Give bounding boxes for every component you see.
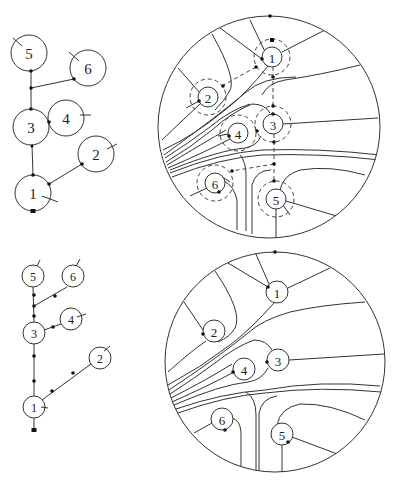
tree-edge [49, 164, 82, 184]
tree-node-5: 5 [11, 35, 47, 71]
disk-node-2: 2 [203, 320, 225, 342]
node-label: 1 [29, 186, 37, 202]
diagram-svg: 5 6 3 4 2 [0, 0, 402, 485]
node-label: 6 [70, 270, 76, 284]
figure-canvas: 5 6 3 4 2 [0, 0, 402, 485]
disk-node-1: 1 [262, 47, 282, 67]
node-label: 6 [84, 61, 92, 77]
tick-mark [37, 260, 40, 266]
node-label: 5 [273, 193, 280, 208]
node-label: 2 [211, 325, 218, 340]
disk-node-3: 3 [267, 349, 289, 371]
disk-node-1: 1 [266, 281, 288, 303]
node-label: 3 [270, 118, 277, 133]
disk-node-3: 3 [263, 114, 283, 134]
node-label: 2 [205, 91, 212, 106]
tree-edge [31, 79, 74, 88]
tree-node-3: 3 [23, 322, 45, 344]
tree-node-1: 1 [23, 396, 48, 418]
node-label: 6 [212, 177, 219, 192]
node-label: 4 [68, 313, 74, 327]
disk-node-4: 4 [228, 123, 248, 143]
disk-node-6: 6 [205, 173, 225, 193]
tree-node-1: 1 [15, 175, 58, 211]
node-label: 3 [31, 327, 37, 341]
tree-node-2: 2 [78, 136, 117, 172]
bottom-disk-embedding: 1 2 3 4 6 5 [165, 250, 385, 475]
tree-node-6: 6 [62, 259, 84, 287]
node-label: 3 [27, 120, 35, 136]
dashed-edge [222, 67, 256, 86]
node-label: 3 [275, 354, 282, 369]
tick-mark [76, 259, 80, 266]
top-left-tree: 5 6 3 4 2 [11, 35, 117, 213]
top-disk-embedding: 1 2 3 4 6 5 [158, 14, 380, 240]
tree-node-5: 5 [22, 260, 44, 287]
disk-node-5: 5 [266, 189, 286, 209]
node-label: 4 [241, 363, 248, 378]
node-label: 4 [235, 127, 242, 142]
node-label: 2 [92, 147, 100, 163]
tree-node-4: 4 [48, 100, 91, 136]
tree-node-4: 4 [60, 308, 86, 330]
tree-edge [32, 145, 33, 175]
root-square [32, 428, 37, 432]
tree-edge [42, 364, 91, 400]
node-label: 1 [274, 286, 281, 301]
tree-node-2: 2 [89, 346, 111, 369]
root-square [31, 209, 36, 213]
node-label: 5 [25, 46, 33, 62]
node-label: 5 [279, 428, 286, 443]
tree-edge [34, 287, 67, 306]
node-label: 5 [30, 270, 36, 284]
disk-node-6: 6 [211, 408, 233, 430]
node-label: 6 [219, 413, 226, 428]
node-label: 1 [269, 51, 276, 66]
bottom-left-tree: 5 6 4 3 2 [22, 259, 111, 432]
disk-node-2: 2 [198, 87, 218, 107]
disk-node-4: 4 [233, 358, 255, 380]
node-label: 2 [97, 352, 103, 366]
tree-node-3: 3 [13, 109, 49, 145]
node-label: 1 [31, 401, 37, 415]
node-label: 4 [62, 111, 70, 127]
